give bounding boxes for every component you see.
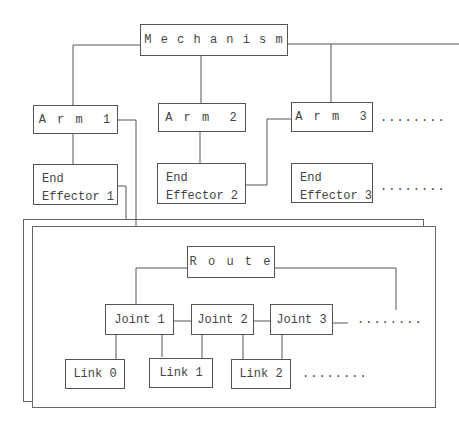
arm-ellipsis: ........ bbox=[380, 111, 446, 125]
joint-2-node: Joint 2 bbox=[191, 304, 254, 335]
arm-2-node: A r m 2 bbox=[158, 103, 246, 132]
joint-ellipsis: ........ bbox=[357, 313, 423, 327]
end-effector-2-node: End Effector 2 bbox=[157, 163, 246, 204]
route-node: R o u t e bbox=[187, 246, 275, 278]
end-effector-3-node: End Effector 3 bbox=[291, 163, 373, 203]
end-effector-3-line2: Effector 3 bbox=[300, 187, 372, 205]
end-effector-1-line2: Effector 1 bbox=[42, 188, 117, 206]
link-0-node: Link 0 bbox=[65, 359, 125, 389]
arm-3-node: A r m 3 bbox=[291, 102, 373, 132]
end-effector-2-line2: Effector 2 bbox=[166, 187, 245, 205]
end-effector-1-node: End Effector 1 bbox=[33, 164, 118, 205]
joint-3-node: Joint 3 bbox=[270, 304, 333, 335]
arm-1-node: A r m 1 bbox=[33, 105, 118, 134]
link-2-node: Link 2 bbox=[231, 359, 291, 389]
end-effector-2-line1: End bbox=[166, 169, 245, 187]
end-effector-1-line1: End bbox=[42, 170, 117, 188]
end-effector-ellipsis: ........ bbox=[380, 180, 446, 194]
link-ellipsis: ........ bbox=[302, 367, 368, 381]
joint-1-node: Joint 1 bbox=[105, 304, 174, 335]
end-effector-3-line1: End bbox=[300, 169, 372, 187]
link-1-node: Link 1 bbox=[149, 358, 213, 388]
mechanism-node: M e c h a n i s m bbox=[140, 24, 288, 56]
